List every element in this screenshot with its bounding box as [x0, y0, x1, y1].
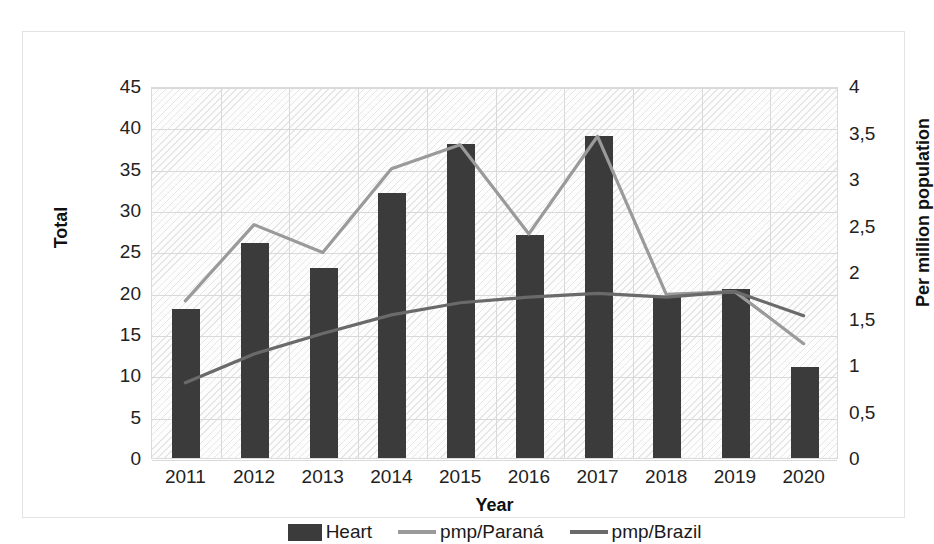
x-axis-tick-label: 2012	[233, 466, 275, 488]
y-axis-right-tick-label: 3	[849, 169, 860, 191]
gridline-horizontal	[152, 129, 837, 130]
x-axis-title: Year	[151, 495, 838, 516]
y-axis-left-tick-label: 15	[120, 324, 141, 346]
y-axis-right-tick-label: 4	[849, 76, 860, 98]
legend-line-swatch-icon	[570, 530, 608, 534]
y-axis-left-tick-label: 35	[120, 159, 141, 181]
x-axis-tick-label: 2011	[165, 466, 206, 488]
x-axis-tick-label: 2020	[783, 466, 825, 488]
y-axis-right-ticks: 00,511,522,533,54	[849, 87, 899, 459]
legend-item-label: pmp/Paraná	[440, 521, 544, 543]
x-axis-tick-label: 2013	[302, 466, 344, 488]
bar	[722, 289, 750, 458]
bar	[447, 144, 475, 458]
legend-item[interactable]: Heart	[288, 521, 372, 543]
y-axis-right-tick-label: 1	[849, 355, 860, 377]
gridline-vertical	[221, 88, 222, 458]
y-axis-right-tick-label: 0,5	[849, 402, 875, 424]
x-axis-tick-label: 2018	[645, 466, 687, 488]
y-axis-right-tick-label: 0	[849, 448, 860, 470]
y-axis-left-tick-label: 40	[120, 117, 141, 139]
bar	[310, 268, 338, 458]
gridline-horizontal	[152, 212, 837, 213]
y-axis-right-tick-label: 2,5	[849, 216, 875, 238]
chart-legend: Heartpmp/Paranápmp/Brazil	[151, 521, 838, 543]
plot-area	[151, 87, 838, 459]
bar	[585, 136, 613, 458]
y-axis-left-tick-label: 10	[120, 365, 141, 387]
legend-item[interactable]: pmp/Brazil	[570, 521, 702, 543]
bar	[241, 243, 269, 458]
x-axis-tick-label: 2015	[439, 466, 481, 488]
bar	[172, 309, 200, 458]
gridline-horizontal	[152, 460, 837, 461]
y-axis-right-tick-label: 3,5	[849, 123, 875, 145]
y-axis-left-tick-label: 0	[130, 448, 141, 470]
bar	[653, 297, 681, 458]
legend-line-swatch-icon	[398, 530, 436, 534]
x-axis-tick-label: 2019	[714, 466, 756, 488]
legend-item-label: Heart	[326, 521, 372, 543]
y-axis-left-ticks: 051015202530354045	[83, 87, 141, 459]
gridline-horizontal	[152, 88, 837, 89]
y-axis-left-tick-label: 30	[120, 200, 141, 222]
bar	[378, 193, 406, 458]
gridline-vertical	[770, 88, 771, 458]
y-axis-right-tick-label: 1,5	[849, 309, 875, 331]
y-axis-right-tick-label: 2	[849, 262, 860, 284]
y-axis-left-tick-label: 20	[120, 283, 141, 305]
y-axis-left-tick-label: 5	[130, 407, 141, 429]
bar	[516, 235, 544, 458]
gridline-vertical	[358, 88, 359, 458]
legend-bar-swatch-icon	[288, 524, 322, 541]
gridline-horizontal	[152, 171, 837, 172]
gridline-vertical	[496, 88, 497, 458]
gridline-vertical	[702, 88, 703, 458]
gridline-vertical	[289, 88, 290, 458]
x-axis-tick-label: 2014	[370, 466, 412, 488]
gridline-vertical	[427, 88, 428, 458]
x-axis-ticks: 2011201220132014201520162017201820192020	[151, 466, 838, 496]
gridline-vertical	[633, 88, 634, 458]
legend-item[interactable]: pmp/Paraná	[398, 521, 544, 543]
gridline-vertical	[564, 88, 565, 458]
x-axis-tick-label: 2017	[576, 466, 618, 488]
legend-item-label: pmp/Brazil	[612, 521, 702, 543]
y-axis-left-tick-label: 45	[120, 76, 141, 98]
y-axis-right-title: Per million population	[913, 73, 934, 353]
y-axis-left-title: Total	[51, 207, 72, 249]
x-axis-tick-label: 2016	[508, 466, 550, 488]
bar	[791, 367, 819, 458]
chart-frame: 051015202530354045 00,511,522,533,54 201…	[22, 31, 905, 518]
y-axis-left-tick-label: 25	[120, 241, 141, 263]
